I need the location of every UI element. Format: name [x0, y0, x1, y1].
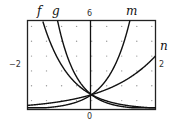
curve-m [28, 21, 130, 108]
label-n: n [160, 40, 168, 52]
graph-plot [0, 0, 173, 123]
curve-f [43, 22, 156, 108]
curve-n [28, 56, 156, 105]
label-f: f [37, 5, 41, 17]
grid-dots [31, 26, 153, 102]
x-min-label: −2 [9, 61, 21, 69]
y-max-label: 6 [87, 10, 92, 18]
label-m: m [126, 5, 137, 17]
x-max-label: 2 [159, 61, 164, 69]
y-min-label: 0 [87, 113, 92, 121]
curve-g [58, 21, 156, 108]
label-g: g [52, 5, 60, 17]
curves [28, 21, 156, 108]
